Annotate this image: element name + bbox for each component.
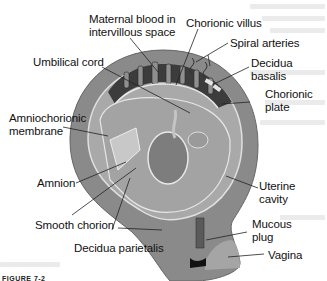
label-uterine-cavity: Uterine cavity [259, 180, 295, 206]
label-maternal-blood: Maternal blood in intervillous space [89, 13, 176, 39]
label-umbilical-cord: Umbilical cord [33, 56, 104, 69]
mucous-plug [196, 218, 204, 248]
label-chorionic-plate: Chorionic plate [265, 88, 313, 114]
fetus [148, 132, 188, 184]
label-amnion: Amnion [37, 177, 75, 190]
figure: Maternal blood in intervillous space Cho… [0, 0, 327, 281]
label-decidua-parietalis: Decidua parietalis [74, 242, 164, 255]
label-amniochorionic-membrane: Amniochorionic membrane [9, 112, 86, 138]
label-chorionic-villus: Chorionic villus [186, 17, 262, 30]
yolk-sac [188, 132, 208, 148]
figure-caption: FIGURE 7-2 [2, 275, 46, 281]
label-vagina: Vagina [268, 249, 302, 262]
label-spiral-arteries: Spiral arteries [230, 37, 299, 50]
label-mucous-plug: Mucous plug [252, 218, 292, 244]
label-decidua-basalis: Decidua basalis [251, 57, 293, 83]
label-smooth-chorion: Smooth chorion [35, 219, 114, 232]
